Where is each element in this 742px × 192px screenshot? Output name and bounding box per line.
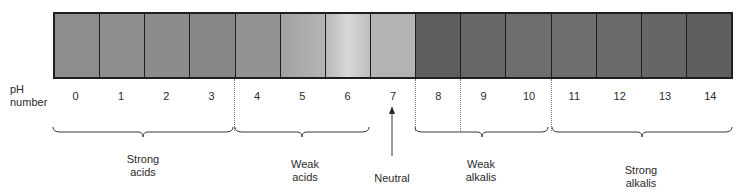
ph-number-7: 7 <box>378 90 408 102</box>
group-label-weak-alkalis: Weak alkalis <box>441 158 521 184</box>
neutral-arrow-head <box>389 106 395 114</box>
brace-strong-acids <box>53 127 233 137</box>
group-label-strong-alkalis: Strong alkalis <box>601 164 681 190</box>
brace-weak-acids <box>235 127 369 137</box>
ph-number-1: 1 <box>106 90 136 102</box>
brace-weak-alkalis <box>415 127 548 137</box>
ph-number-10: 10 <box>514 90 544 102</box>
ph-number-3: 3 <box>197 90 227 102</box>
group-label-weak-acids: Weak acids <box>265 158 345 184</box>
ph-number-0: 0 <box>61 90 91 102</box>
group-label-neutral: Neutral <box>352 172 432 185</box>
ph-number-2: 2 <box>151 90 181 102</box>
ph-number-12: 12 <box>605 90 635 102</box>
ph-number-9: 9 <box>469 90 499 102</box>
ph-number-13: 13 <box>650 90 680 102</box>
ph-number-11: 11 <box>559 90 589 102</box>
ph-number-8: 8 <box>423 90 453 102</box>
brace-strong-alkalis <box>552 127 732 137</box>
ph-number-14: 14 <box>695 90 725 102</box>
ph-number-6: 6 <box>333 90 363 102</box>
ph-number-4: 4 <box>242 90 272 102</box>
group-label-strong-acids: Strong acids <box>103 153 183 179</box>
ph-number-5: 5 <box>287 90 317 102</box>
